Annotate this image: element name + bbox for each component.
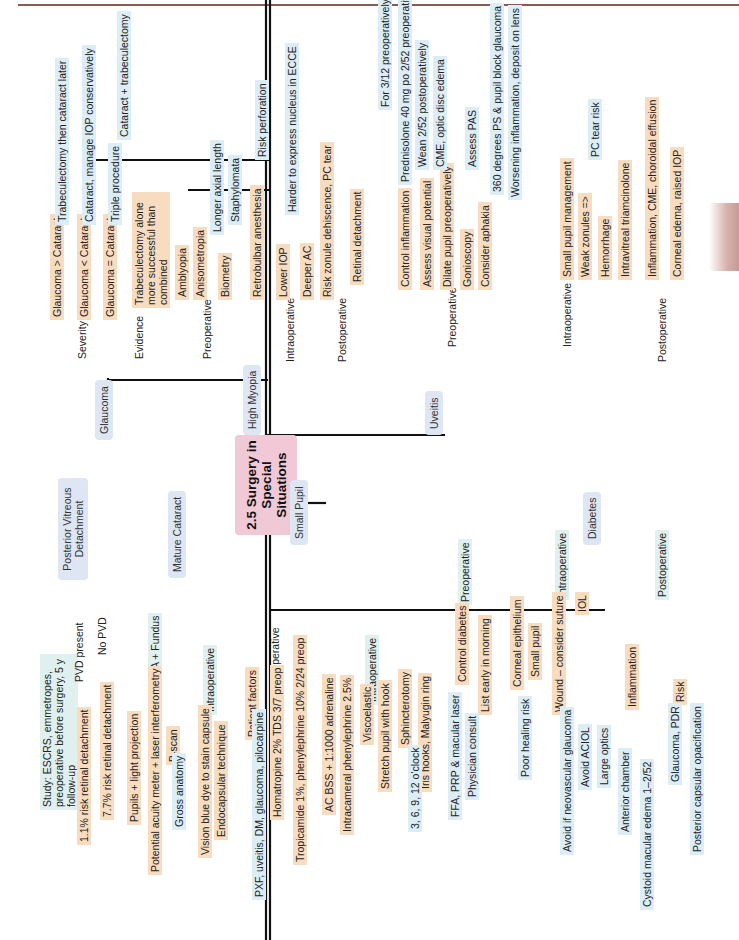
large-optics: Large optics (597, 725, 611, 788)
category-diabetes: Diabetes (583, 492, 601, 545)
worsening-inflammation: Worsening inflammation, deposit on lens (508, 5, 522, 200)
pc-tear-risk: PC tear risk (588, 99, 602, 160)
control-diabetes: Control diabetes (455, 603, 469, 685)
diabetes-preoperative: Preoperative (458, 539, 472, 605)
assess-visual-potential: Assess visual potential (420, 178, 434, 290)
control-inflammation: Control inflammation (398, 188, 412, 290)
list-early-morning: List early in morning (478, 615, 492, 715)
lower-iop: Lower IOP (276, 244, 290, 300)
assess-pas: Assess PAS (465, 107, 479, 170)
weak-zonules: Weak zonules => (578, 193, 592, 280)
category-high-myopia: High Myopia (243, 365, 261, 435)
amblyopia: Amblyopia (175, 245, 189, 300)
pxf-uveitis-dm: PXF, uveitis, DM, glaucoma, pilocarpine (252, 709, 266, 900)
mind-map: 2.5 Surgery in Special Situations Glauco… (0, 0, 739, 940)
retinal-detachment: Retinal detachment (350, 189, 364, 285)
pupils-light-projection: Pupils + light projection (127, 711, 141, 825)
post-risk: Risk (673, 679, 687, 705)
sphincterotomy: Sphincterotomy (398, 669, 412, 748)
small-pupil-management: Small pupil management (560, 158, 574, 280)
avoid-neovascular: Avoid if neovascular glaucoma (560, 707, 574, 855)
homatropine: Homatropine 2% TDS 3/7 preop (270, 665, 284, 820)
for-3-12: For 3/12 preoperatively (378, 0, 392, 110)
myopia-preoperative: Preoperative (200, 296, 214, 362)
iol: IOL (575, 592, 589, 615)
endocapsular-technique: Endocapsular technique (214, 721, 228, 840)
risk-zonule: Risk zonule dehiscence, PC tear (320, 142, 334, 300)
hemorrhage: Hemorrhage (598, 216, 612, 280)
intracameral-phenylephrine: Intracameral phenylephrine 2.5% (340, 675, 354, 835)
risk-rd-7-7: 7.7% risk retinal detachment (100, 682, 114, 820)
viscoelastic: Viscoelastic (360, 684, 374, 745)
potential-acuity-meter: Potential acuity meter + laser interfero… (148, 666, 162, 875)
dilate-pupil: Dilate pupil preoperatively (440, 163, 454, 290)
category-small-pupil: Small Pupil (290, 480, 308, 545)
cataract-trabeculectomy: Cataract + trabeculectomy (117, 11, 131, 140)
staphylomata: Staphylomata (228, 155, 242, 225)
anisometropia: Anisometropia (193, 227, 207, 300)
severity-g-gt-c-detail: Trabeculectomy then cataract later (55, 58, 69, 225)
risk-rd-1-1: 1.1% risk retinal detachment (77, 707, 91, 845)
gross-anatomy: Gross anatomy (172, 753, 186, 830)
ps-pupil-block: 360 degrees PS & pupil block glaucoma (490, 3, 504, 195)
wound-suture: Wound – consider suture (552, 592, 566, 715)
consider-aphakia: Consider aphakia (478, 202, 492, 290)
retrobulbar-anesthesia: Retrobulbar anesthesia (250, 185, 264, 300)
wean: Wean 2/52 postoperatively (415, 40, 429, 170)
uveitis-preoperative: Preoperative (445, 284, 459, 350)
myopia-intraoperative: Intraoperative (283, 295, 297, 365)
avoid-aciol: Avoid ACIOL (578, 724, 592, 790)
prednisolone: Prednisolone 40 mg po 2/52 preoperativel… (398, 0, 412, 185)
pco: Posterior capsular opacification (690, 703, 704, 855)
category-uveitis: Uveitis (425, 391, 443, 435)
deeper-ac: Deeper AC (300, 243, 314, 300)
cme-optic-disc: CME, optic disc edema (433, 56, 447, 170)
root-node: 2.5 Surgery in Special Situations (235, 435, 297, 535)
diabetes-intraoperative: Intraoperative (555, 530, 569, 600)
glaucoma-severity: Severity (75, 318, 89, 362)
glaucoma-evidence: Evidence (132, 313, 146, 362)
uveitis-postoperative: Postoperative (655, 295, 669, 365)
glaucoma-pdr: Glaucoma, PDR (668, 703, 682, 785)
corneal-edema-iop: Corneal edema, raised IOP (670, 147, 684, 280)
severity-g-lt-c-detail: Cataract, manage IOP conservatively (82, 45, 96, 225)
longer-axial-length: Longer axial length (210, 140, 224, 235)
risk-perforation: Risk perforation (255, 80, 269, 160)
triple-procedure: Triple procedure (108, 143, 122, 225)
post-inflammation: Inflammation (625, 644, 639, 710)
no-pvd: No PVD (95, 614, 109, 658)
pvd-present: PVD present (72, 619, 86, 685)
cme-1-2-52: Cystoid macular edema 1–2/52 (640, 759, 654, 910)
intravitreal-triamcinolone: Intravitreal triamcinolone (618, 160, 632, 280)
stretch-pupil-hook: Stretch pupil with hook (378, 680, 392, 792)
ac-bss: AC BSS + 1:1000 adrenaline (322, 674, 336, 815)
poor-healing-risk: Poor healing risk (518, 696, 532, 780)
physician-consult: Physician consult (465, 713, 479, 800)
severity-g-eq-c: Glaucoma = Cataract (103, 214, 117, 320)
category-glaucoma: Glaucoma (95, 380, 113, 440)
myopia-postoperative: Postoperative (335, 295, 349, 365)
category-mature-cataract: Mature Cataract (168, 491, 186, 578)
post-inflammation-cme: Inflammation, CME, choroidal effusion (645, 97, 659, 280)
category-pvd: Posterior Vitreous Detachment (58, 478, 88, 580)
clock-positions: 3, 6, 9, 12 o'clock (408, 745, 422, 832)
diabetes-postoperative: Postoperative (655, 530, 669, 600)
tropicamide: Tropicamide 1%, phenylephrine 10% 2/24 p… (293, 635, 307, 865)
evidence-detail: Trabeculectomy alone more successful tha… (132, 192, 170, 308)
severity-g-gt-c: Glaucoma > Cataract (50, 214, 64, 320)
biometry: Biometry (218, 253, 232, 300)
harder-express-nucleus: Harder to express nucleus in ECCE (285, 43, 299, 215)
vision-blue-dye: Vision blue dye to stain capsule (198, 705, 212, 858)
uveitis-intraoperative: Intraoperative (560, 280, 574, 350)
severity-g-lt-c: Glaucoma < Cataract (77, 214, 91, 320)
corneal-epithelium: Corneal epithelium (510, 596, 524, 690)
ffa-prp: FFA, PRP & macular laser (448, 692, 462, 820)
gonioscopy: Gonioscopy (460, 229, 474, 290)
small-pupil-dm: Small pupil (528, 623, 542, 680)
anterior-chamber: Anterior chamber (618, 748, 632, 835)
